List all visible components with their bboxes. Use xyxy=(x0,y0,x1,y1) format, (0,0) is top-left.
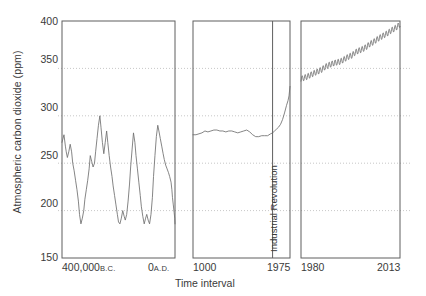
x-tick-panel1-right-era: A.D. xyxy=(154,264,170,273)
plot-area xyxy=(0,0,426,296)
x-tick-panel2-right: 1975 xyxy=(267,261,290,273)
x-tick-panel1-left-value: 400,000 xyxy=(62,261,100,273)
gridline-group xyxy=(58,68,412,210)
series-keeling-curve xyxy=(301,23,400,81)
x-tick-panel3-left: 1980 xyxy=(301,261,324,273)
x-axis-title: Time interval xyxy=(175,277,235,289)
series-millennium-record xyxy=(193,86,290,136)
co2-chart-figure: Atmospheric carbon dioxide (ppm) 400 350… xyxy=(0,0,426,296)
x-tick-panel1-right: 0A.D. xyxy=(148,261,169,273)
data-series-group xyxy=(62,23,400,224)
industrial-revolution-label: Industrial Revolution xyxy=(268,165,279,252)
x-tick-panel1-left: 400,000B.C. xyxy=(62,261,116,273)
x-tick-panel2-left: 1000 xyxy=(193,261,216,273)
x-tick-panel3-right: 2013 xyxy=(377,261,400,273)
x-tick-panel1-left-era: B.C. xyxy=(100,264,116,273)
series-ice-core-record xyxy=(62,116,175,224)
panel-frame-3 xyxy=(301,21,400,258)
